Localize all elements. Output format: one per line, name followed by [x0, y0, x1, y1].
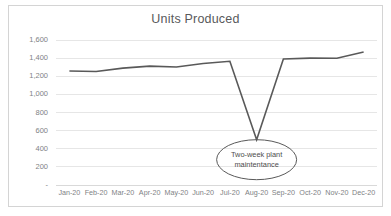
y-axis-tick: 400 — [8, 144, 48, 153]
y-axis-tick: - — [8, 180, 48, 189]
annotation-line-2: maintentance — [217, 160, 297, 170]
y-axis-tick: 1,200 — [8, 71, 48, 80]
x-axis-tick: May-20 — [164, 188, 188, 197]
y-axis-tick: 800 — [8, 108, 48, 117]
x-axis-tick: Jul-20 — [220, 188, 240, 197]
annotation-line-1: Two-week plant — [217, 150, 297, 160]
annotation-label: Two-week plant maintentance — [217, 150, 297, 170]
y-axis-tick: 1,000 — [8, 89, 48, 98]
x-axis-tick: Nov-20 — [325, 188, 348, 197]
x-axis-tick: Dec-20 — [352, 188, 375, 197]
x-axis-tick: Apr-20 — [139, 188, 161, 197]
y-axis-tick: 1,400 — [8, 53, 48, 62]
x-axis-tick: Jan-20 — [58, 188, 80, 197]
x-axis-tick: Feb-20 — [85, 188, 108, 197]
y-axis-tick: 200 — [8, 162, 48, 171]
x-axis-tick: Aug-20 — [245, 188, 268, 197]
units-produced-series — [69, 52, 363, 140]
chart-card: Units Produced -2004006008001,0001,2001,… — [0, 0, 391, 216]
x-axis-tick: Oct-20 — [299, 188, 321, 197]
y-axis-tick: 600 — [8, 126, 48, 135]
y-axis-tick: 1,600 — [8, 35, 48, 44]
x-axis-tick: Sep-20 — [272, 188, 295, 197]
line-chart-plot — [0, 0, 391, 216]
x-axis-tick: Jun-20 — [192, 188, 214, 197]
x-axis-tick: Mar-20 — [111, 188, 134, 197]
